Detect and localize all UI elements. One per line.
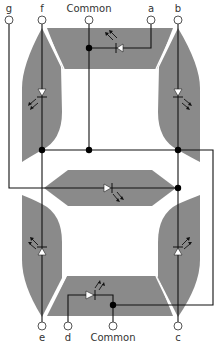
pin-g[interactable]	[5, 16, 13, 24]
pin-label-a: a	[148, 3, 154, 14]
seven-segment-diagram: g f Common a b e d Common c	[0, 0, 223, 343]
junction-dot	[110, 302, 116, 308]
pin-label-g: g	[6, 3, 12, 14]
pin-e[interactable]	[38, 322, 46, 330]
junction-dot	[39, 147, 45, 153]
pin-label-f: f	[40, 3, 44, 14]
pin-b[interactable]	[174, 16, 182, 24]
junction-dot	[175, 147, 181, 153]
pin-common-top[interactable]	[85, 16, 93, 24]
pin-d[interactable]	[64, 322, 72, 330]
junction-dot	[86, 45, 92, 51]
pin-label-e: e	[39, 332, 45, 343]
pin-label-c: c	[175, 332, 181, 343]
segment-d	[47, 276, 173, 316]
junction-dot	[86, 147, 92, 153]
pin-f[interactable]	[38, 16, 46, 24]
pin-label-d: d	[65, 332, 71, 343]
pin-a[interactable]	[147, 16, 155, 24]
pin-common-bottom[interactable]	[109, 322, 117, 330]
pin-c[interactable]	[174, 322, 182, 330]
pin-label-b: b	[175, 3, 181, 14]
pin-label-common-top: Common	[66, 3, 111, 14]
pin-label-common-bottom: Common	[90, 332, 135, 343]
junction-dot	[175, 185, 181, 191]
